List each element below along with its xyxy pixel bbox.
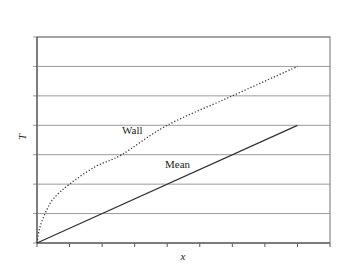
wall-label: Wall [122, 124, 143, 136]
plot-frame [37, 37, 330, 243]
x-axis-ticks [37, 243, 330, 247]
chart: Wall Mean T x [0, 0, 351, 277]
x-axis-label: x [180, 250, 186, 262]
mean-label: Mean [165, 158, 191, 170]
gridlines [33, 37, 330, 243]
y-axis-label: T [16, 133, 28, 140]
